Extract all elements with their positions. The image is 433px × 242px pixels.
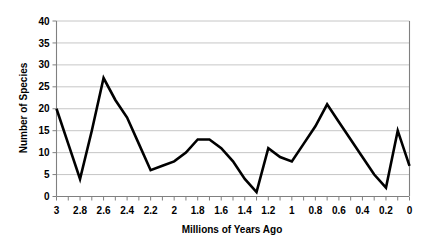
y-axis-title: Number of Species: [18, 62, 29, 153]
x-tick-marks: [57, 197, 410, 201]
chart-canvas: 0510152025303540 32.82.62.42.221.81.61.4…: [0, 0, 433, 242]
gridlines-group: [57, 21, 410, 175]
y-tick-label: 15: [38, 125, 50, 136]
y-tick-label: 10: [38, 147, 50, 158]
x-tick-label: 2.4: [120, 205, 134, 216]
data-series-line: [57, 78, 410, 192]
y-tick-label: 30: [38, 59, 50, 70]
y-tick-marks: [53, 21, 57, 197]
y-tick-label: 40: [38, 16, 50, 27]
x-tick-label: 1.6: [214, 205, 228, 216]
x-tick-label: 2.2: [144, 205, 158, 216]
x-tick-label: 1.8: [191, 205, 205, 216]
y-tick-label: 35: [38, 38, 50, 49]
species-over-time-line-chart: 0510152025303540 32.82.62.42.221.81.61.4…: [0, 0, 433, 242]
x-tick-label: 1.2: [261, 205, 275, 216]
x-tick-label: 2.6: [97, 205, 111, 216]
x-tick-label: 2.8: [73, 205, 87, 216]
y-tick-label: 0: [44, 191, 50, 202]
y-tick-label: 5: [44, 169, 50, 180]
x-tick-label: 1: [289, 205, 295, 216]
x-tick-labels: 32.82.62.42.221.81.61.41.210.80.60.40.20: [54, 205, 413, 216]
y-axis-group: 0510152025303540: [38, 16, 56, 203]
x-tick-label: 1.4: [238, 205, 252, 216]
x-tick-label: 0: [407, 205, 413, 216]
y-tick-labels: 0510152025303540: [38, 16, 50, 203]
x-tick-label: 3: [54, 205, 60, 216]
x-tick-label: 2: [171, 205, 177, 216]
x-tick-label: 0.4: [355, 205, 369, 216]
y-tick-label: 25: [38, 81, 50, 92]
y-tick-label: 20: [38, 103, 50, 114]
x-axis-title: Millions of Years Ago: [182, 224, 283, 235]
x-tick-label: 0.6: [332, 205, 346, 216]
x-axis-group: 32.82.62.42.221.81.61.41.210.80.60.40.20: [54, 197, 413, 216]
x-tick-label: 0.8: [308, 205, 322, 216]
x-tick-label: 0.2: [379, 205, 393, 216]
